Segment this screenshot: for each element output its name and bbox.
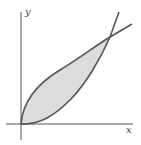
figure-canvas — [0, 0, 141, 145]
region-between-curves-figure: y x — [0, 0, 141, 145]
y-axis-label: y — [25, 6, 31, 17]
shaded-region — [21, 37, 110, 124]
x-axis-label: x — [126, 124, 132, 135]
